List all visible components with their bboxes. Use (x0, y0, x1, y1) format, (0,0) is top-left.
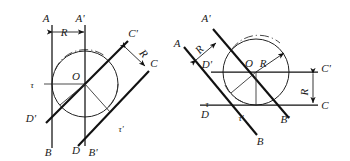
figure-canvas: A A' R τ O C' C R D' τ' B D B' (0, 0, 350, 161)
right-label-O: O (245, 57, 253, 69)
left-label-D: D (71, 144, 80, 156)
left-label-B: B (45, 146, 52, 158)
left-label-A-prime: A' (74, 12, 85, 24)
right-label-D: D (200, 108, 209, 120)
left-line-D-C (78, 71, 149, 146)
left-label-tau-prime: τ' (118, 124, 124, 134)
left-label-R-top: R (60, 26, 68, 38)
left-construction-arc-right (108, 84, 118, 107)
right-label-A-prime: A' (200, 12, 211, 24)
right-construction: A' A R D' O R C' C R τ D τ' B' B (173, 12, 332, 147)
left-label-C-prime: C' (128, 27, 138, 39)
right-label-D-prime: D' (201, 58, 213, 70)
right-construction-arc-upper (232, 35, 280, 49)
right-label-C-prime: C' (321, 62, 331, 74)
left-label-tau: τ (30, 80, 34, 90)
right-radius-lower-left (231, 72, 256, 93)
technical-figure: A A' R τ O C' C R D' τ' B D B' (0, 0, 350, 161)
right-label-B-prime: B' (280, 113, 290, 125)
left-label-B-prime: B' (88, 146, 98, 158)
left-label-C: C (150, 57, 158, 69)
right-label-B: B (257, 135, 264, 147)
left-label-D-prime: D' (25, 112, 37, 124)
left-radius-lower-left (60, 84, 85, 105)
right-label-R-radius: R (259, 57, 267, 69)
right-label-R-right: R (298, 88, 310, 96)
left-line-Dprime-Cprime (46, 41, 128, 123)
left-label-O: O (72, 70, 80, 82)
right-label-A: A (173, 37, 181, 49)
left-label-A: A (42, 12, 50, 24)
left-construction: A A' R τ O C' C R D' τ' B D B' (25, 12, 158, 158)
right-label-R-upper: R (192, 43, 206, 57)
left-label-R-diagonal: R (137, 46, 151, 60)
left-radius-lower-right (85, 84, 110, 112)
right-label-C: C (321, 99, 329, 111)
